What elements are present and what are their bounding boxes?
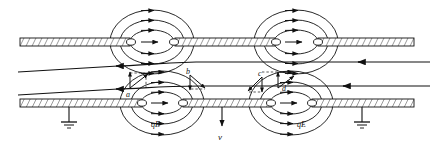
label-point-d: d — [282, 84, 287, 93]
trajectory-lower — [18, 86, 430, 95]
diagram-svg: a b c d qE qE v — [0, 0, 432, 147]
label-velocity: v — [218, 132, 222, 142]
lower-gap-2-field-arrows — [280, 72, 297, 134]
force-vectors-at-b — [190, 75, 205, 90]
force-vectors-at-c — [248, 77, 262, 92]
ground-icon-left — [61, 107, 77, 128]
trajectory-upper — [18, 62, 430, 72]
upper-plate-left — [20, 38, 130, 46]
lower-plate-mid — [183, 99, 271, 107]
lower-plate-left — [20, 99, 142, 107]
label-point-b: b — [186, 67, 190, 76]
label-force-left: qE — [151, 120, 160, 129]
upper-plate-right — [318, 38, 414, 46]
label-force-right: qE — [297, 120, 306, 129]
ground-icon-right — [354, 107, 370, 128]
label-point-a: a — [126, 90, 130, 99]
label-point-c: c — [258, 69, 262, 78]
lower-plate-right — [312, 99, 414, 107]
figure-canvas: a b c d qE qE v — [0, 0, 432, 147]
upper-plate-mid — [175, 38, 275, 46]
